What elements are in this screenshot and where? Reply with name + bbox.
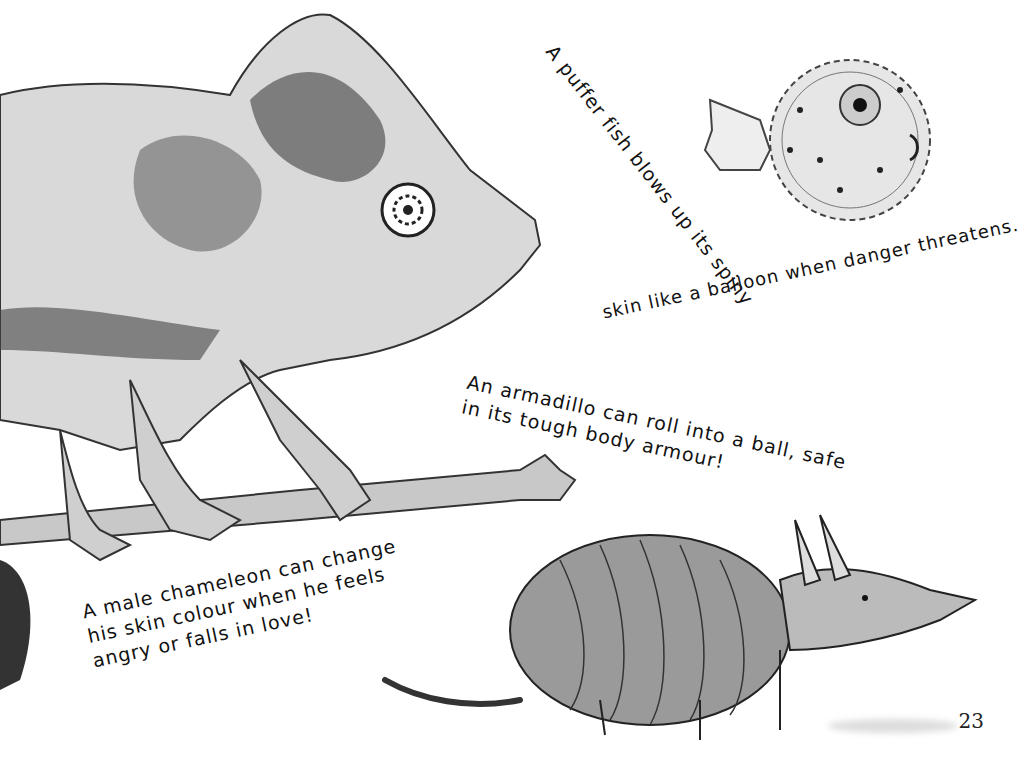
ground-shadow [828, 719, 958, 733]
pufferfish-illustration [705, 60, 930, 220]
armadillo-illustration [385, 515, 975, 740]
page-number: 23 [959, 709, 984, 733]
